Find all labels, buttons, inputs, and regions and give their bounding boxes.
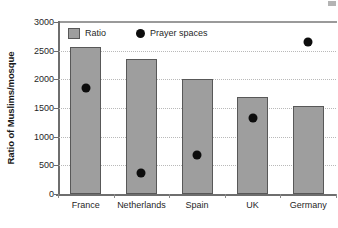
y-tick-mark [54,137,59,138]
plot-area [58,22,336,194]
y-tick-label: 2000 [20,74,54,84]
bar-germany [293,106,324,194]
y-tick-label: 500 [20,160,54,170]
legend-dot-icon [136,29,145,38]
x-tick-mark [169,194,170,198]
y-tick-mark [54,165,59,166]
scan-artifact [328,1,336,6]
x-tick-label: Netherlands [117,200,166,210]
x-axis-line [56,194,337,196]
legend-entry-ratio: Ratio [68,28,106,39]
y-tick-label: 0 [20,189,54,199]
dot-germany [304,38,313,47]
x-tick-label: Spain [185,200,208,210]
chart-legend: Ratio Prayer spaces [68,26,208,40]
x-tick-label: UK [246,200,259,210]
x-tick-label: France [72,200,100,210]
legend-entry-prayer-spaces: Prayer spaces [136,28,208,38]
y-tick-label: 3000 [20,17,54,27]
bar-spain [182,79,213,194]
x-tick-label: Germany [290,200,327,210]
dot-spain [193,151,202,160]
y-tick-mark [54,22,59,23]
bar-france [70,47,101,194]
x-tick-mark [280,194,281,198]
x-tick-mark [225,194,226,198]
y-tick-label: 2500 [20,46,54,56]
legend-label-ratio: Ratio [85,28,106,38]
bar-uk [237,97,268,194]
x-tick-mark [336,194,337,198]
chart-figure: Ratio of Muslims/mosque 0500100015002000… [0,0,338,228]
y-tick-label: 1500 [20,103,54,113]
y-axis-tick-labels: 050010001500200025003000 [16,22,54,194]
dot-france [81,83,90,92]
x-tick-mark [114,194,115,198]
x-tick-mark [58,194,59,198]
y-tick-label: 1000 [20,132,54,142]
dot-netherlands [137,168,146,177]
y-tick-mark [54,108,59,109]
y-tick-mark [54,79,59,80]
legend-label-prayer-spaces: Prayer spaces [150,28,208,38]
y-tick-mark [54,51,59,52]
legend-swatch-icon [68,28,80,39]
dot-uk [248,113,257,122]
x-axis-tick-labels: FranceNetherlandsSpainUKGermany [58,200,336,218]
